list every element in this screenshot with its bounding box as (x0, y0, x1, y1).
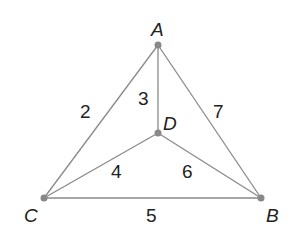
vertex-b (258, 195, 265, 202)
weighted-graph-diagram: A D C B 2 3 7 4 6 5 (0, 0, 293, 242)
edge-c-d (44, 133, 158, 198)
vertex-d (155, 130, 162, 137)
vertex-label-c: C (24, 205, 38, 226)
vertex-label-b: B (266, 205, 279, 226)
weight-label-ac: 2 (80, 101, 91, 122)
edge-d-b (158, 133, 261, 198)
weight-label-cb: 5 (146, 205, 157, 226)
weight-label-ab: 7 (213, 101, 224, 122)
weight-label-db: 6 (182, 161, 193, 182)
vertex-label-d: D (163, 113, 177, 134)
weight-label-cd: 4 (111, 161, 122, 182)
weight-label-ad: 3 (138, 88, 149, 109)
vertex-c (41, 195, 48, 202)
edge-a-c (44, 45, 158, 198)
vertex-label-a: A (150, 19, 164, 40)
vertex-a (155, 42, 162, 49)
